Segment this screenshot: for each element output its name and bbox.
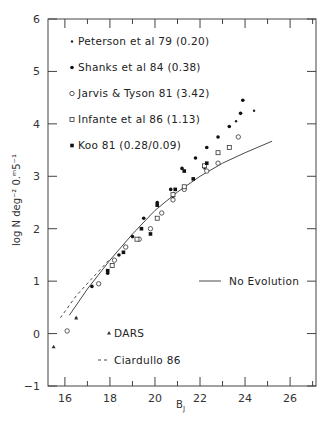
data-point (171, 193, 175, 197)
data-point (227, 125, 231, 129)
legend-label: Shanks et al 84 (0.38) (78, 61, 201, 73)
ciardullo-label: Ciardullo 86 (114, 354, 181, 366)
data-point (216, 135, 220, 139)
data-point (106, 269, 110, 273)
x-tick-label: 18 (103, 392, 117, 405)
data-point (140, 227, 144, 231)
data-point (235, 120, 237, 122)
no-evolution-curve (69, 141, 272, 315)
data-point (131, 235, 135, 239)
data-point (148, 227, 152, 231)
data-point (236, 135, 240, 139)
data-point (117, 253, 121, 257)
plot-frame (48, 19, 316, 386)
legend-marker (71, 40, 73, 42)
data-point (239, 112, 243, 116)
data-point (142, 216, 146, 220)
data-point (182, 185, 186, 189)
y-tick-label: 0 (33, 328, 40, 341)
data-point (52, 345, 56, 349)
legend-marker (70, 66, 74, 70)
data-point (216, 161, 220, 165)
legend-marker (70, 118, 74, 122)
data-point (155, 203, 159, 207)
data-point (171, 198, 175, 202)
data-point (123, 245, 127, 249)
y-axis-title: log N deg⁻² 0.ᵐ5⁻¹ (11, 154, 22, 246)
data-point (112, 258, 116, 262)
data-points (52, 98, 256, 348)
legend-label: Koo 81 (0.28/0.09) (78, 139, 181, 151)
data-point (253, 110, 255, 112)
dars-legend-marker (107, 331, 111, 335)
data-point (149, 232, 153, 236)
x-tick-label: 16 (58, 392, 72, 405)
legend: Peterson et al 79 (0.20)Shanks et al 84 … (70, 35, 299, 366)
data-point (110, 263, 114, 267)
data-point (155, 216, 159, 220)
x-tick-label: 22 (193, 392, 207, 405)
data-point (194, 156, 198, 160)
y-tick-label: 2 (33, 223, 40, 236)
number-counts-chart: 161820222426−10123456 Peterson et al 79 … (0, 0, 334, 423)
data-point (90, 285, 94, 289)
data-point (160, 211, 164, 215)
data-point (169, 188, 173, 192)
legend-marker (70, 91, 74, 95)
x-tick-label: 20 (148, 392, 162, 405)
no-evolution-label: No Evolution (229, 275, 299, 287)
data-point (135, 237, 139, 241)
data-point (216, 151, 220, 155)
ciardullo-curve (60, 259, 110, 318)
data-point (173, 188, 177, 192)
x-tick-label: 26 (283, 392, 297, 405)
y-tick-label: 4 (33, 118, 40, 131)
data-point (122, 251, 126, 255)
x-tick-label: 24 (238, 392, 252, 405)
y-tick-label: 3 (33, 170, 40, 183)
model-curves (60, 141, 272, 318)
dars-label: DARS (114, 327, 144, 339)
legend-marker (70, 144, 74, 148)
y-tick-label: 5 (33, 65, 40, 78)
data-point (205, 146, 209, 150)
data-point (182, 169, 186, 173)
legend-label: Jarvis & Tyson 81 (3.42) (77, 87, 210, 99)
data-point (205, 169, 209, 173)
y-tick-label: 1 (33, 275, 40, 288)
y-tick-label: −1 (24, 380, 40, 393)
data-point (227, 145, 231, 149)
y-tick-label: 6 (33, 13, 40, 26)
x-axis-title: BJ (176, 399, 185, 413)
data-point (74, 316, 78, 320)
data-point (241, 98, 245, 102)
data-point (96, 282, 100, 286)
legend-label: Peterson et al 79 (0.20) (78, 35, 209, 47)
legend-label: Infante et al 86 (1.13) (78, 113, 200, 125)
data-point (191, 177, 195, 181)
data-point (205, 161, 209, 165)
data-point (65, 329, 69, 333)
